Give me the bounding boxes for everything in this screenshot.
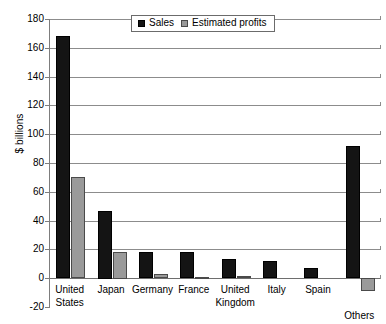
x-axis-category-label: France <box>173 284 214 297</box>
bar-estimated-profits <box>237 276 251 278</box>
y-axis-tick-label: 100 <box>4 129 44 139</box>
y-axis-tick-label: 80 <box>4 158 44 168</box>
bars-layer <box>50 19 381 307</box>
x-axis-category-label: Japan <box>90 284 131 297</box>
y-axis-tick-label: 180 <box>4 14 44 24</box>
x-axis-category-label: Others <box>339 310 380 323</box>
legend-entry-estimated-profits: Estimated profits <box>181 18 266 28</box>
x-axis-category-label: United States <box>49 284 90 309</box>
x-axis-category-label: Germany <box>132 284 173 297</box>
y-axis-tick-label: 160 <box>4 43 44 53</box>
bar-group <box>50 19 91 307</box>
bar-sales <box>304 268 318 278</box>
bar-sales <box>56 36 70 278</box>
bar-sales <box>180 252 194 278</box>
x-axis-category-label: Spain <box>297 284 338 297</box>
bar-estimated-profits <box>71 177 85 278</box>
bar-group <box>174 19 215 307</box>
plot-area: 180160140120100806040200-20 <box>49 19 381 307</box>
bar-chart: $ billions 180160140120100806040200-20 U… <box>0 0 386 324</box>
black-square-icon <box>138 20 145 27</box>
chart-legend: Sales Estimated profits <box>131 15 275 32</box>
bar-sales <box>222 259 236 278</box>
y-axis-tick-label: 140 <box>4 72 44 82</box>
bar-sales <box>263 261 277 278</box>
gray-square-icon <box>181 20 188 27</box>
x-axis-labels: United StatesJapanGermanyFranceUnited Ki… <box>49 284 381 324</box>
bar-group <box>257 19 298 307</box>
y-axis-tick-label: 40 <box>4 216 44 226</box>
bar-group <box>91 19 132 307</box>
legend-entry-sales: Sales <box>138 18 174 28</box>
bar-estimated-profits <box>195 277 209 279</box>
bar-estimated-profits <box>113 252 127 279</box>
bar-group <box>340 19 381 307</box>
x-axis-category-label: United Kingdom <box>215 284 256 309</box>
bar-estimated-profits <box>154 274 168 278</box>
y-axis-tick-label: 120 <box>4 100 44 110</box>
legend-label-estimated-profits: Estimated profits <box>192 18 266 28</box>
y-axis-tick-label: -20 <box>4 302 44 312</box>
bar-group <box>298 19 339 307</box>
bar-group <box>216 19 257 307</box>
legend-label-sales: Sales <box>149 18 174 28</box>
bar-sales <box>346 146 360 278</box>
bar-sales <box>139 252 153 278</box>
x-axis-category-label: Italy <box>256 284 297 297</box>
bar-group <box>133 19 174 307</box>
y-axis-tick-label: 60 <box>4 187 44 197</box>
y-axis-tick-label: 0 <box>4 273 44 283</box>
y-axis-tick-label: 20 <box>4 244 44 254</box>
bar-sales <box>98 211 112 279</box>
